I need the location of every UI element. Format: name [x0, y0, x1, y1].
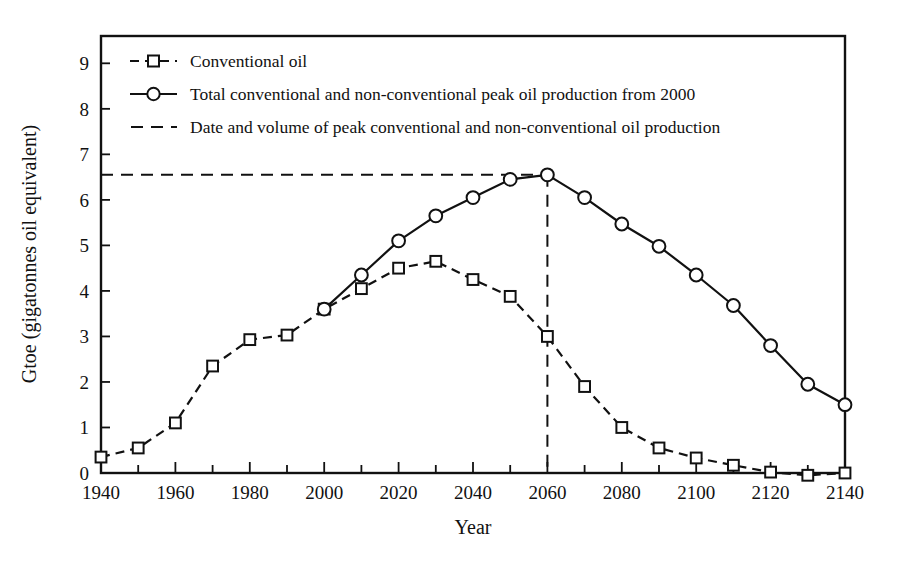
data-point-marker	[654, 443, 665, 454]
y-tick-label: 0	[80, 463, 90, 484]
y-tick-label: 4	[80, 281, 90, 302]
data-point-marker	[504, 173, 517, 186]
peak-oil-line-chart: 0123456789 19401960198020002020204020602…	[0, 0, 907, 569]
x-tick-label: 2140	[826, 482, 864, 503]
x-tick-label: 1940	[82, 482, 120, 503]
data-point-marker	[653, 240, 666, 253]
data-point-marker	[170, 418, 181, 429]
chart-container: 0123456789 19401960198020002020204020602…	[0, 0, 907, 569]
data-point-marker	[505, 291, 516, 302]
y-axis-tick-labels: 0123456789	[80, 53, 90, 484]
data-point-marker	[355, 269, 368, 282]
y-tick-label: 6	[80, 190, 90, 211]
x-tick-label: 2020	[380, 482, 418, 503]
data-point-marker	[429, 209, 442, 222]
data-point-marker	[430, 256, 441, 267]
y-tick-label: 2	[80, 372, 90, 393]
data-point-marker	[244, 334, 255, 345]
legend-marker-circle	[147, 88, 159, 100]
legend-entry-peak-guide: Date and volume of peak conventional and…	[131, 117, 720, 137]
legend-label-total-oil: Total conventional and non-conventional …	[190, 84, 695, 104]
data-point-marker	[468, 274, 479, 285]
chart-legend: Conventional oil Total conventional and …	[130, 51, 720, 137]
x-axis-title: Year	[455, 516, 492, 538]
x-tick-label: 2100	[677, 482, 715, 503]
data-point-marker	[133, 443, 144, 454]
data-point-marker	[801, 378, 814, 391]
x-tick-label: 1980	[231, 482, 269, 503]
x-tick-label: 2040	[454, 482, 492, 503]
y-tick-label: 1	[80, 417, 90, 438]
data-point-marker	[840, 468, 851, 479]
data-point-marker	[691, 453, 702, 464]
data-point-marker	[282, 330, 293, 341]
data-point-marker	[541, 168, 554, 181]
x-tick-label: 1960	[156, 482, 194, 503]
y-tick-label: 7	[80, 144, 90, 165]
data-point-marker	[392, 234, 405, 247]
legend-entry-total-oil: Total conventional and non-conventional …	[130, 84, 695, 104]
x-tick-label: 2120	[752, 482, 790, 503]
legend-label-peak-guide: Date and volume of peak conventional and…	[190, 117, 720, 137]
y-axis-ticks	[101, 63, 110, 473]
data-point-marker	[690, 269, 703, 282]
data-point-marker	[207, 361, 218, 372]
data-point-marker	[467, 191, 480, 204]
y-tick-label: 5	[80, 235, 90, 256]
legend-marker-square	[148, 56, 159, 67]
data-point-marker	[802, 470, 813, 481]
y-tick-label: 8	[80, 99, 90, 120]
peak-guide-lines	[101, 175, 547, 473]
data-point-marker	[96, 452, 107, 463]
x-axis-tick-labels: 1940196019802000202020402060208021002120…	[82, 482, 864, 503]
data-point-marker	[578, 191, 591, 204]
series-total-oil-line	[324, 175, 845, 405]
data-point-marker	[727, 299, 740, 312]
data-point-marker	[616, 422, 627, 433]
data-point-marker	[728, 460, 739, 471]
data-point-marker	[318, 303, 331, 316]
data-point-marker	[839, 398, 852, 411]
x-tick-label: 2060	[528, 482, 566, 503]
x-tick-label: 2080	[603, 482, 641, 503]
y-tick-label: 3	[80, 326, 90, 347]
data-point-marker	[579, 381, 590, 392]
data-point-marker	[764, 339, 777, 352]
series-total-oil-markers	[318, 168, 852, 411]
legend-entry-conventional-oil: Conventional oil	[130, 51, 307, 71]
data-point-marker	[356, 283, 367, 294]
data-point-marker	[615, 218, 628, 231]
series-conventional-oil-markers	[96, 256, 851, 481]
data-point-marker	[542, 331, 553, 342]
data-point-marker	[393, 263, 404, 274]
y-tick-label: 9	[80, 53, 90, 74]
data-point-marker	[765, 467, 776, 478]
legend-label-conventional-oil: Conventional oil	[190, 51, 307, 71]
y-axis-title: Gtoe (gigatonnes oil equivalent)	[18, 125, 41, 383]
x-tick-label: 2000	[305, 482, 343, 503]
